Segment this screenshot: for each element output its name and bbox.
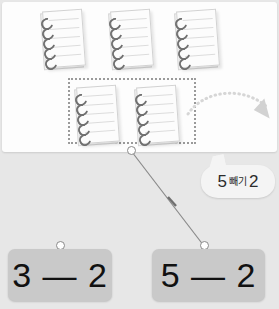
connector-origin-node[interactable] — [127, 146, 136, 155]
answer-tile-right[interactable]: 5 — 2 — [152, 249, 265, 301]
bubble-tail — [206, 154, 226, 170]
notebook-icon[interactable] — [134, 84, 180, 144]
bubble-first-number: 5 — [218, 172, 227, 191]
curved-dotted-arrow — [186, 84, 278, 132]
notebook-icon[interactable] — [40, 8, 86, 68]
prompt-speech-bubble: 5빼기2 — [201, 165, 275, 198]
bubble-text: 5빼기2 — [218, 172, 259, 192]
notebook-icon[interactable] — [108, 8, 154, 68]
screenshot-canvas: 5빼기2 3 — 2 5 — 2 — [0, 0, 279, 309]
answer-tile-left[interactable]: 3 — 2 — [8, 249, 112, 301]
bubble-second-number: 2 — [249, 172, 258, 191]
answer-expression: 5 — 2 — [161, 258, 257, 292]
notebook-icon[interactable] — [174, 8, 220, 68]
answer-connector-line[interactable] — [0, 140, 279, 260]
notebook-icon[interactable] — [74, 84, 120, 144]
answer-expression: 3 — 2 — [12, 258, 108, 292]
bubble-operator-word: 빼기 — [227, 176, 249, 187]
